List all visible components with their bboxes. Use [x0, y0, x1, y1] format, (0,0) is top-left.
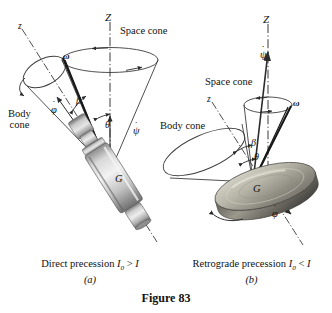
panel-b-drawing — [157, 24, 324, 245]
panel-b-caption: Retrograde precession I0 < I — [174, 258, 329, 273]
panel-a-Z-axis-label: Z — [105, 12, 111, 23]
panel-b-caption-relation: < — [298, 258, 304, 269]
panel-a-caption: Direct precession I0 > I — [20, 258, 160, 273]
panel-b-space-cone-label: Space cone — [205, 77, 253, 88]
panel-a-phi-dot-label: ˙φ — [51, 105, 57, 116]
panel-b-caption-symbol-2: I — [307, 258, 311, 269]
figure-number: Figure 83 — [0, 291, 332, 306]
panel-a-body-cone-label: Body cone — [8, 108, 31, 131]
panel-b-mass-center-label: G — [253, 184, 261, 195]
panel-b-caption-text: Retrograde precession — [193, 258, 287, 269]
panel-a-theta-arc — [98, 114, 110, 118]
panel-a-body-cone-line2: cone — [8, 119, 31, 130]
panel-a-caption-symbol-2: I — [135, 258, 139, 269]
panel-b-body-cone-label: Body cone — [160, 121, 205, 132]
panel-b-psi-dot-label: ˙ψ — [260, 50, 267, 61]
panel-b-Z-axis-label: Z — [263, 14, 269, 25]
panel-a-psi-dot-label: ˙ψ — [133, 126, 140, 137]
panel-b-letter: (b) — [174, 274, 329, 285]
panel-a-body-cone-line1: Body — [8, 108, 31, 119]
panel-b-psi-dot-vector — [253, 52, 268, 182]
panel-a-theta-label: θ — [105, 120, 110, 130]
panel-b-theta-label: θ — [254, 152, 259, 162]
panel-a-beta-label: β — [76, 96, 81, 106]
panel-b-caption-sub: 0 — [292, 264, 296, 272]
panel-b-rotor-disk — [210, 153, 324, 230]
panel-a-space-cone-label: Space cone — [120, 26, 168, 37]
panel-b-beta-label: β — [251, 138, 256, 148]
panel-a-caption-sub: 0 — [121, 264, 125, 272]
panel-b-phi-dot-label: ˙φ — [272, 209, 278, 220]
panel-a-omega-label: ω — [63, 52, 70, 61]
figure-83-root: Z z ω Space cone Body cone ˙φ β θ ˙ψ G Z… — [0, 0, 332, 313]
panel-a-z-axis-label: z — [18, 22, 22, 32]
panel-a-caption-relation: > — [127, 258, 133, 269]
panel-a-mass-center-label: G — [115, 174, 123, 185]
panel-a-letter: (a) — [20, 274, 160, 285]
panel-b-omega-label: ω — [293, 99, 300, 108]
panel-b-z-axis-label: z — [207, 95, 211, 105]
panel-a-caption-text: Direct precession — [41, 258, 114, 269]
